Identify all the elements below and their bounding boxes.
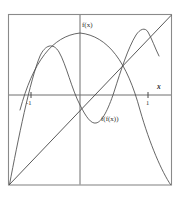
label-tick-negative-one: -1 — [26, 99, 31, 106]
label-axis-x: x — [156, 82, 161, 91]
label-f-of-x: f(x) — [82, 21, 93, 29]
function-plot: f(x) f(f(x)) x -1 1 — [0, 0, 180, 200]
label-tick-positive-one: 1 — [146, 99, 149, 106]
label-f-of-f-of-x: f(f(x)) — [101, 115, 119, 123]
figure-root: f(x) f(f(x)) x -1 1 — [0, 0, 180, 200]
